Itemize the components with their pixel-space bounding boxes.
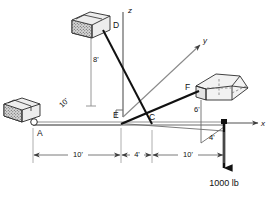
point-label-a: A	[37, 128, 43, 138]
axis-x: x	[224, 119, 266, 128]
dimension-10ft-diagonal-label: 10'	[57, 96, 71, 110]
statics-diagram-figure: z y x A	[0, 0, 272, 197]
load-label: 1000 lb	[209, 178, 239, 188]
dimension-6ft: 6'	[194, 100, 201, 127]
boom-member	[33, 122, 224, 131]
point-label-d: D	[113, 20, 119, 30]
dimension-4ft-e-to-c-label: 4'	[134, 150, 140, 159]
dimension-6ft-label: 6'	[194, 105, 200, 114]
point-label-e: E	[113, 110, 119, 120]
dimension-4ft-e-to-c: 4'	[122, 148, 151, 160]
dimension-10ft-c-to-load: 10'	[153, 148, 223, 160]
dimension-4ft-offset-label: 4'	[209, 133, 215, 142]
point-label-f: F	[185, 82, 190, 92]
axis-z-label: z	[127, 6, 132, 15]
dimension-8ft: 8'	[86, 38, 99, 106]
dimension-10ft-c-to-load-label: 10'	[183, 150, 193, 159]
diagram-canvas: z y x A	[0, 0, 272, 197]
dimension-10ft-a-to-e: 10'	[34, 148, 120, 160]
cable-d-to-c	[103, 30, 152, 124]
dimension-8ft-label: 8'	[93, 55, 99, 64]
dimension-chain: 10' 4' 10'	[33, 128, 224, 163]
anchor-block-f	[196, 74, 248, 100]
axis-z: z	[123, 6, 132, 117]
support-block-a	[4, 98, 40, 125]
dimension-10ft-diagonal: 10'	[57, 96, 71, 110]
point-label-c: C	[149, 112, 155, 122]
dimension-10ft-a-to-e-label: 10'	[73, 150, 83, 159]
pin-joint-a	[31, 119, 38, 126]
axis-y-label: y	[202, 36, 208, 45]
axis-x-label: x	[260, 119, 266, 128]
